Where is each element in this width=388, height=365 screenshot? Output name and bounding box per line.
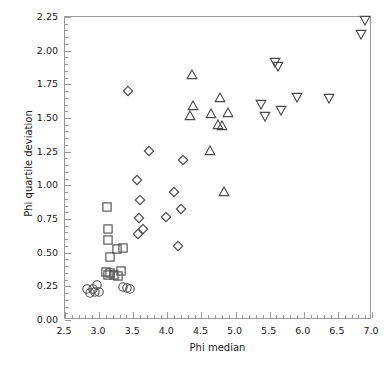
y-tick-label: 2.25 — [37, 11, 58, 22]
data-point-triangle-up — [212, 119, 224, 131]
data-point-circle — [89, 286, 101, 298]
x-tick-label: 3.0 — [91, 325, 106, 336]
data-point-circle — [93, 286, 105, 298]
data-point-circle — [124, 283, 136, 295]
x-tick-label: 5.0 — [227, 325, 242, 336]
data-point-square — [115, 265, 127, 277]
data-point-triangle-down — [255, 98, 267, 110]
data-point-triangle-down — [275, 104, 287, 116]
scatter-plot-figure: 2.53.03.54.04.55.05.56.06.57.0 0.000.250… — [0, 0, 388, 365]
data-point-square — [104, 267, 116, 279]
x-tick-label: 5.5 — [261, 325, 276, 336]
data-point-square — [117, 242, 129, 254]
data-point-triangle-up — [186, 69, 198, 81]
data-point-diamond — [160, 211, 172, 223]
data-point-triangle-down — [323, 92, 335, 104]
data-point-triangle-down — [359, 14, 371, 26]
data-point-triangle-up — [187, 100, 199, 112]
x-tick-label: 4.5 — [193, 325, 208, 336]
data-point-triangle-up — [222, 107, 234, 119]
data-point-circle — [84, 287, 96, 299]
x-tick-label: 3.5 — [125, 325, 140, 336]
data-point-square — [100, 266, 112, 278]
y-tick-major — [65, 320, 71, 321]
data-point-circle — [91, 279, 103, 291]
x-tick-label: 4.0 — [159, 325, 174, 336]
data-point-square — [102, 223, 114, 235]
data-point-diamond — [175, 203, 187, 215]
data-point-diamond — [172, 240, 184, 252]
x-tick-major — [372, 312, 373, 318]
data-point-diamond — [131, 174, 143, 186]
data-point-triangle-down — [291, 91, 303, 103]
data-point-circle — [87, 283, 99, 295]
data-point-square — [108, 269, 120, 281]
y-tick-label: 1.50 — [37, 112, 58, 123]
y-tick-label: 0.75 — [37, 213, 58, 224]
data-point-diamond — [134, 194, 146, 206]
y-tick-label: 0.00 — [37, 314, 58, 325]
data-point-circle — [117, 281, 129, 293]
data-point-square — [104, 251, 116, 263]
y-tick-label: 0.50 — [37, 246, 58, 257]
y-axis-title: Phi quartile deviation — [23, 74, 34, 254]
y-tick-label: 1.00 — [37, 179, 58, 190]
y-tick-label: 0.25 — [37, 280, 58, 291]
data-point-triangle-up — [218, 186, 230, 198]
x-tick-label: 7.0 — [363, 325, 378, 336]
y-tick-label: 1.75 — [37, 78, 58, 89]
data-point-triangle-down — [272, 60, 284, 72]
data-point-triangle-up — [214, 92, 226, 104]
data-point-triangle-down — [269, 56, 281, 68]
data-point-triangle-up — [184, 110, 196, 122]
data-point-diamond — [137, 223, 149, 235]
x-tick-label: 6.0 — [295, 325, 310, 336]
data-point-diamond — [143, 145, 155, 157]
x-axis-title: Phi median — [64, 342, 371, 353]
data-point-diamond — [122, 85, 134, 97]
data-point-triangle-up — [216, 120, 228, 132]
data-point-square — [112, 270, 124, 282]
plot-data-area — [64, 16, 371, 319]
y-tick-label: 2.00 — [37, 44, 58, 55]
data-point-triangle-up — [205, 108, 217, 120]
data-point-diamond — [132, 228, 144, 240]
data-point-diamond — [133, 212, 145, 224]
data-point-triangle-down — [355, 28, 367, 40]
data-point-diamond — [177, 154, 189, 166]
data-point-triangle-up — [204, 145, 216, 157]
data-point-circle — [81, 283, 93, 295]
y-tick-label: 1.25 — [37, 145, 58, 156]
x-tick-label: 6.5 — [329, 325, 344, 336]
data-point-circle — [121, 282, 133, 294]
data-point-square — [111, 243, 123, 255]
data-point-triangle-down — [259, 110, 271, 122]
data-point-diamond — [168, 186, 180, 198]
data-point-square — [101, 201, 113, 213]
data-point-square — [102, 234, 114, 246]
x-tick-label: 2.5 — [56, 325, 71, 336]
data-point-square — [102, 269, 114, 281]
